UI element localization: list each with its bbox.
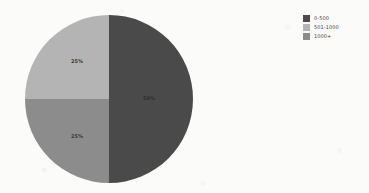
legend-label-501-1000: 501-1000 — [314, 24, 339, 31]
pie-slice-1000-plus[interactable] — [25, 99, 109, 183]
legend-swatch-icon-0-500 — [303, 15, 310, 22]
legend-item-0-500[interactable]: 0-500 — [303, 15, 339, 22]
pie-svg: 50% 25% 25% — [25, 15, 193, 183]
pie-slice-label-501-1000: 25% — [71, 58, 83, 64]
legend-swatch-icon-501-1000 — [303, 24, 310, 31]
chart-legend: 0-500 501-1000 1000+ — [303, 15, 339, 40]
legend-item-1000-plus[interactable]: 1000+ — [303, 33, 339, 40]
pie-slice-label-0-500: 50% — [143, 95, 155, 101]
pie-plot-area: 50% 25% 25% — [25, 15, 193, 183]
pie-slice-501-1000[interactable] — [25, 15, 109, 99]
legend-swatch-icon-1000-plus — [303, 33, 310, 40]
legend-label-1000-plus: 1000+ — [314, 33, 331, 40]
legend-label-0-500: 0-500 — [314, 15, 329, 22]
pie-chart-figure: 50% 25% 25% 0-500 501-1000 1000+ — [0, 0, 369, 193]
pie-slice-label-1000-plus: 25% — [71, 133, 83, 139]
legend-item-501-1000[interactable]: 501-1000 — [303, 24, 339, 31]
